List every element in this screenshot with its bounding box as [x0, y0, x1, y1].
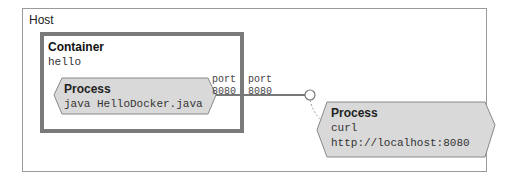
process-curl-url: http://localhost:8080	[331, 137, 470, 149]
container-name: hello	[48, 56, 81, 68]
process-curl-title: Process	[331, 106, 378, 120]
container-port-label: port 8080	[212, 74, 236, 98]
host-port-label: port 8080	[248, 74, 272, 98]
port-label-text: port	[212, 74, 236, 86]
container-title: Container	[48, 40, 104, 54]
port-number: 8080	[212, 86, 236, 98]
host-port-circle	[305, 90, 315, 100]
port-label-text: port	[248, 74, 272, 86]
port-number: 8080	[248, 86, 272, 98]
process-java-title: Process	[64, 82, 111, 96]
process-java-command: java HelloDocker.java	[64, 98, 203, 110]
process-curl-command: curl	[331, 122, 357, 134]
